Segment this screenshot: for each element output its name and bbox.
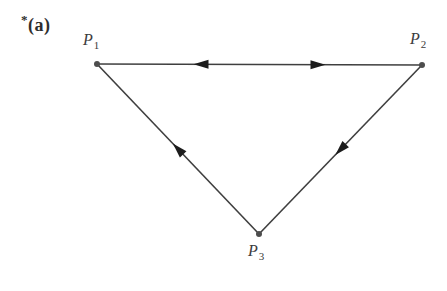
vertex-letter: P xyxy=(83,31,93,48)
vertex-subscript: 2 xyxy=(421,38,427,50)
vertex-dot-P2 xyxy=(419,62,425,68)
vertex-label-P1: P1 xyxy=(83,32,99,51)
vertex-letter: P xyxy=(410,30,420,47)
vertex-label-P2: P2 xyxy=(410,31,426,50)
vertex-label-P3: P3 xyxy=(248,243,264,262)
vertex-subscript: 1 xyxy=(94,39,100,51)
vertex-dot-P1 xyxy=(94,61,100,67)
vertex-letter: P xyxy=(248,242,258,259)
figure-canvas: *(a) P1 P2 P3 xyxy=(0,0,447,291)
vertex-dot-P3 xyxy=(256,231,262,237)
arrowhead-P1-P2-reverse xyxy=(194,60,209,69)
arrowhead-P1-P2 xyxy=(310,60,325,69)
graph-svg xyxy=(0,0,447,291)
edge-P1-P2 xyxy=(97,64,422,65)
vertex-subscript: 3 xyxy=(259,250,265,262)
